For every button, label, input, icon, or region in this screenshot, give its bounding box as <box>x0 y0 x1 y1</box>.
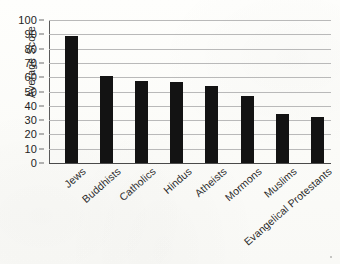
y-tick-label: 10 <box>25 143 37 155</box>
y-tick-mark <box>39 34 44 35</box>
gridline <box>49 77 331 78</box>
y-axis-tick-labels: 1009080706050403020100 <box>0 20 44 163</box>
y-tick-label: 30 <box>25 114 37 126</box>
y-tick-label: 0 <box>31 157 37 169</box>
plot-area <box>49 20 331 163</box>
y-tick-mark <box>39 20 44 21</box>
y-tick-label: 100 <box>18 14 37 26</box>
y-tick-mark <box>39 120 44 121</box>
gridline <box>49 34 331 35</box>
bar <box>311 117 324 163</box>
y-tick-label: 60 <box>25 71 37 83</box>
bar <box>205 86 218 163</box>
y-tick-mark <box>39 77 44 78</box>
bar <box>135 81 148 163</box>
gridline <box>49 20 331 21</box>
bar <box>276 114 289 163</box>
y-tick-label: 80 <box>25 43 37 55</box>
x-axis-tick-labels: JewsBuddhistsCatholicsHindusAtheistsMorm… <box>49 165 340 263</box>
x-tick-label: Buddhists <box>80 165 123 205</box>
y-tick-label: 40 <box>25 100 37 112</box>
x-tick-label: Hindus <box>160 165 193 196</box>
y-tick-mark <box>39 134 44 135</box>
x-tick-label: Catholics <box>117 165 158 203</box>
gridline <box>49 49 331 50</box>
y-tick-mark <box>39 105 44 106</box>
scan-speck <box>330 256 332 258</box>
bar <box>100 76 113 163</box>
gridline <box>49 120 331 121</box>
gridline <box>49 92 331 93</box>
y-tick-mark <box>39 48 44 49</box>
y-tick-label: 50 <box>25 86 37 98</box>
x-tick-label: Jews <box>62 165 88 190</box>
x-tick-label: Mormons <box>222 165 263 203</box>
y-tick-mark <box>39 163 44 164</box>
y-tick-label: 70 <box>25 57 37 69</box>
y-tick-label: 20 <box>25 128 37 140</box>
bar-chart-figure: Average Score 1009080706050403020100 Jew… <box>0 0 340 264</box>
bar <box>241 96 254 163</box>
gridline <box>49 63 331 64</box>
y-tick-label: 90 <box>25 28 37 40</box>
y-tick-mark <box>39 148 44 149</box>
gridline <box>49 106 331 107</box>
y-tick-mark <box>39 62 44 63</box>
gridline <box>49 149 331 150</box>
y-tick-mark <box>39 91 44 92</box>
gridline <box>49 134 331 135</box>
bar <box>65 36 78 163</box>
bar <box>170 82 183 163</box>
